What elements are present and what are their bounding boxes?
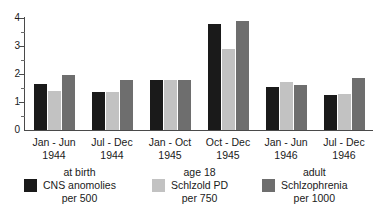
x-category-label-line2: 1944 [25, 149, 83, 162]
bar [62, 75, 75, 130]
bar [222, 49, 235, 130]
bars-layer [25, 0, 373, 131]
legend-label-line1: age 18 [171, 166, 228, 179]
bar [92, 92, 105, 130]
bar [164, 80, 177, 130]
y-tick-label: 0 [14, 125, 20, 135]
x-category-label: Jan - Jun1944 [25, 136, 83, 162]
bar [236, 21, 249, 130]
plot-area: 01234 [0, 0, 381, 135]
x-category-label: Oct - Dec1945 [199, 136, 257, 162]
x-category-label-line2: 1945 [199, 149, 257, 162]
x-category-label-line1: Jul - Dec [91, 136, 132, 148]
legend-label-line3: per 1000 [281, 192, 348, 205]
bar [324, 95, 337, 130]
bar-group [324, 0, 365, 130]
bar [280, 82, 293, 130]
legend-label-line3: per 500 [43, 192, 116, 205]
legend-label: at birthCNS anomoliesper 500 [43, 166, 116, 205]
bar [48, 91, 61, 130]
x-category-label-line2: 1946 [315, 149, 373, 162]
bar [294, 85, 307, 130]
x-category-label-line1: Jan - Oct [149, 136, 192, 148]
legend-label-line2: Schlzophrenia [281, 179, 348, 192]
legend-item: adultSchlzophreniaper 1000 [262, 166, 348, 205]
bar [106, 92, 119, 130]
legend-label-line2: CNS anomolies [43, 179, 116, 192]
legend-color-swatch [152, 179, 165, 192]
legend-label: age 18Schlzold PDper 750 [171, 166, 228, 205]
bar-group [34, 0, 75, 130]
bar [266, 87, 279, 130]
x-category-label-line2: 1945 [141, 149, 199, 162]
x-category-label-line1: Jan - Jun [264, 136, 307, 148]
bar-group [208, 0, 249, 130]
chart-legend: at birthCNS anomoliesper 500age 18Schlzo… [0, 166, 381, 215]
legend-label-line2: Schlzold PD [171, 179, 228, 192]
x-category-label-line2: 1946 [257, 149, 315, 162]
x-category-label-line2: 1944 [83, 149, 141, 162]
grouped-bar-chart: 01234 Jan - Jun1944Jul - Dec1944Jan - Oc… [0, 0, 381, 215]
bar [208, 24, 221, 130]
legend-label-line1: adult [281, 166, 348, 179]
legend-color-swatch [24, 179, 37, 192]
bar [150, 80, 163, 130]
legend-label: adultSchlzophreniaper 1000 [281, 166, 348, 205]
bar [352, 78, 365, 130]
x-axis-category-labels: Jan - Jun1944Jul - Dec1944Jan - Oct1945O… [25, 136, 373, 164]
legend-label-line3: per 750 [171, 192, 228, 205]
bar-group [266, 0, 307, 130]
bar [120, 80, 133, 130]
x-category-label: Jan - Jun1946 [257, 136, 315, 162]
x-category-label: Jul - Dec1946 [315, 136, 373, 162]
legend-label-line1: at birth [43, 166, 116, 179]
x-category-label-line1: Jul - Dec [323, 136, 364, 148]
bar [34, 84, 47, 130]
legend-color-swatch [262, 179, 275, 192]
bar [178, 80, 191, 130]
bar [338, 94, 351, 130]
bar-group [92, 0, 133, 130]
legend-item: age 18Schlzold PDper 750 [152, 166, 228, 205]
bar-group [150, 0, 191, 130]
x-category-label-line1: Oct - Dec [206, 136, 250, 148]
y-axis-tick-labels: 01234 [6, 0, 20, 135]
x-category-label: Jan - Oct1945 [141, 136, 199, 162]
legend-item: at birthCNS anomoliesper 500 [24, 166, 116, 205]
x-category-label: Jul - Dec1944 [83, 136, 141, 162]
x-category-label-line1: Jan - Jun [32, 136, 75, 148]
